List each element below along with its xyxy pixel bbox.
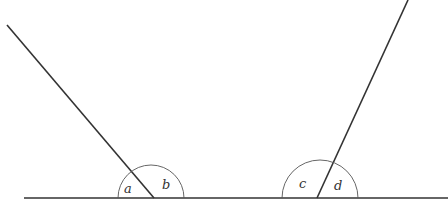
diagram-svg: a b c d	[0, 0, 448, 202]
angle-label-c: c	[299, 176, 307, 191]
angle-label-d: d	[334, 178, 342, 193]
angle-label-b: b	[162, 177, 170, 192]
left-line	[7, 25, 154, 198]
right-line	[317, 0, 408, 198]
angle-label-a: a	[124, 181, 132, 196]
angle-diagram: a b c d	[0, 0, 448, 202]
